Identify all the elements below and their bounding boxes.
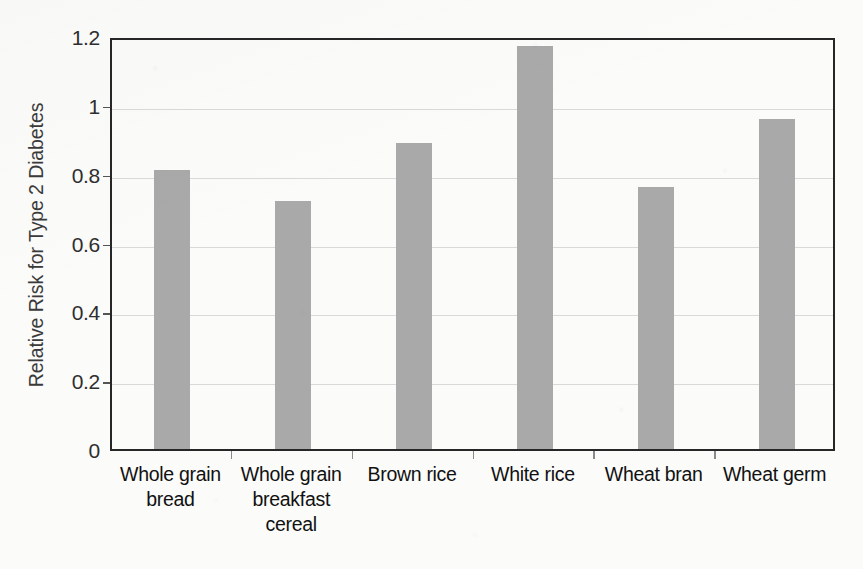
x-category-label: Whole grain breakfast cereal: [225, 462, 358, 537]
x-category-label: Wheat germ: [708, 462, 841, 487]
x-category-label: Wheat bran: [587, 462, 720, 487]
x-axis-category-labels: Whole grain breadWhole grain breakfast c…: [0, 0, 863, 569]
bar-chart-figure: Relative Risk for Type 2 Diabetes 00.20.…: [0, 0, 863, 569]
x-category-label: Brown rice: [346, 462, 479, 487]
x-category-label: White rice: [467, 462, 600, 487]
x-category-label: Whole grain bread: [104, 462, 237, 512]
